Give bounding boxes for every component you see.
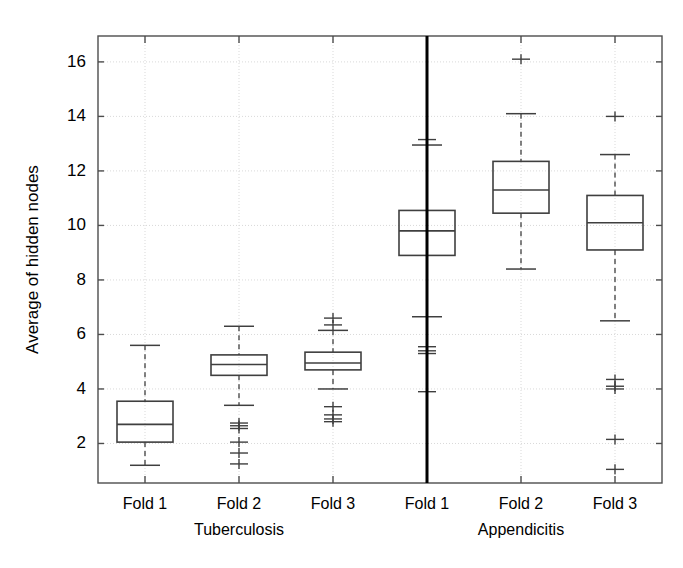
box-plot-appendicitis-fold-2 xyxy=(493,54,549,269)
y-tick-label: 14 xyxy=(52,106,86,126)
group-label-tuberculosis: Tuberculosis xyxy=(194,521,284,539)
group-label-appendicitis: Appendicitis xyxy=(478,521,564,539)
x-tick-label: Fold 3 xyxy=(593,495,637,513)
y-tick-label: 4 xyxy=(52,379,86,399)
plot-canvas xyxy=(0,0,683,568)
y-tick-label: 12 xyxy=(52,161,86,181)
axes-frame xyxy=(98,36,662,483)
x-tick-label: Fold 1 xyxy=(405,495,449,513)
y-tick-label: 2 xyxy=(52,433,86,453)
y-tick-label: 8 xyxy=(52,270,86,290)
y-tick-label: 10 xyxy=(52,215,86,235)
box-plot-tuberculosis-fold-3 xyxy=(305,313,361,427)
x-tick-label: Fold 3 xyxy=(311,495,355,513)
x-tick-label: Fold 1 xyxy=(123,495,167,513)
box-plot-appendicitis-fold-3 xyxy=(587,111,643,474)
x-tick-label: Fold 2 xyxy=(499,495,543,513)
box[interactable] xyxy=(493,161,549,213)
y-tick-label: 16 xyxy=(52,52,86,72)
x-tick-label: Fold 2 xyxy=(217,495,261,513)
box-plot-figure: Average of hidden nodes 246810121416Fold… xyxy=(0,0,683,568)
y-tick-label: 6 xyxy=(52,324,86,344)
